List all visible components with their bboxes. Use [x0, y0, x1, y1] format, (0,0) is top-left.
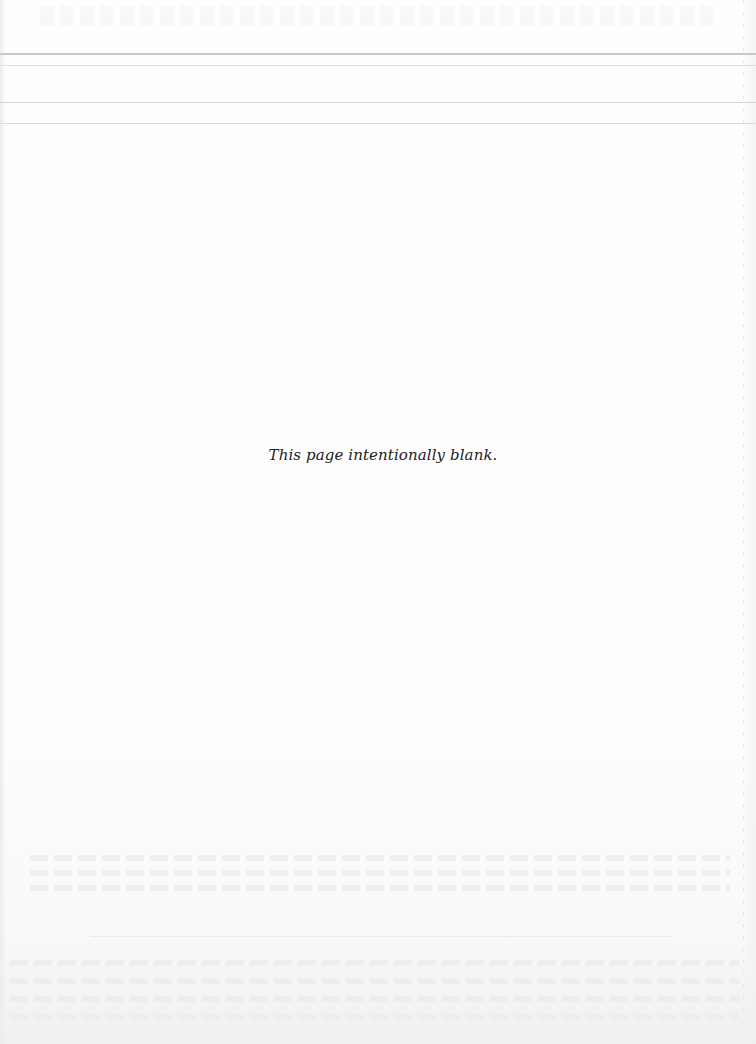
reverse-side-bleed-through [30, 885, 730, 891]
reverse-side-bleed-rule [90, 936, 670, 937]
page-bottom-shading [0, 940, 756, 1044]
header-rule-3 [0, 102, 756, 103]
header-bleed-through [40, 6, 720, 26]
reverse-side-bleed-through [30, 870, 730, 876]
header-rule-4 [0, 123, 756, 124]
page-binding-marks [743, 0, 744, 1044]
header-rule-2 [0, 65, 756, 66]
reverse-side-bleed-through [30, 855, 730, 861]
document-page: This page intentionally blank. [0, 0, 756, 1044]
page-right-edge-shadow [742, 0, 756, 1044]
blank-page-notice: This page intentionally blank. [0, 446, 756, 464]
page-left-edge-shadow [0, 0, 6, 1044]
header-rule-1 [0, 53, 756, 55]
